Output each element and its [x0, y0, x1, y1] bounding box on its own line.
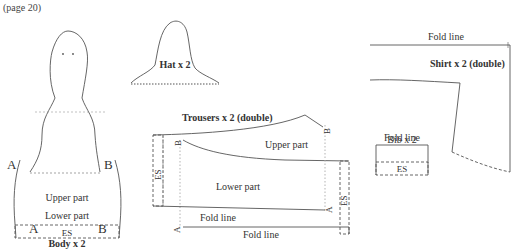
body-upper-label: Upper part	[45, 192, 88, 203]
trousers-upper-label: Upper part	[265, 139, 308, 150]
body-mark-b-lower: B	[98, 221, 107, 236]
trousers-es-left: ES	[153, 169, 163, 180]
trousers-mark-a-left: A	[172, 226, 182, 233]
sewing-pattern-diagram: A B A B Body x 2 Upper part Lower part E…	[0, 0, 519, 250]
bib-title: Bib x 2	[387, 134, 416, 145]
trousers-lower-label: Lower part	[216, 181, 260, 192]
shirt-fold-line: Fold line	[428, 31, 464, 42]
trousers-fold-line-outer: Fold line	[243, 229, 279, 240]
trousers-mark-b-right: B	[322, 128, 332, 134]
body-mark-b: B	[104, 157, 113, 172]
trousers-es-right: ES	[339, 195, 349, 206]
body-lower-label: Lower part	[45, 210, 89, 221]
trousers-fold-line-inner: Fold line	[200, 212, 236, 223]
body-es-label: ES	[62, 228, 73, 238]
trousers-title: Trousers x 2 (double)	[182, 112, 272, 124]
trousers-mark-b-left: B	[173, 140, 183, 146]
bib-es-label: ES	[397, 164, 408, 174]
body-mark-a: A	[7, 157, 17, 172]
trousers-piece	[153, 115, 349, 234]
shirt-title: Shirt x 2 (double)	[430, 58, 505, 70]
trousers-mark-a-right: A	[324, 206, 334, 213]
hat-title: Hat x 2	[159, 59, 190, 70]
body-title: Body x 2	[48, 238, 85, 249]
body-piece	[14, 31, 121, 238]
body-mark-a-lower: A	[29, 221, 39, 236]
hat-piece	[131, 21, 219, 84]
